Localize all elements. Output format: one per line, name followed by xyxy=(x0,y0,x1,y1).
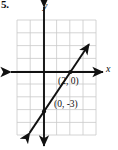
plotted-line xyxy=(30,44,89,133)
coordinate-plane-graph xyxy=(0,0,118,150)
point-2-0 xyxy=(68,70,72,74)
point-0-neg3 xyxy=(42,109,46,113)
y-axis-label: y xyxy=(43,1,47,11)
point-label-0-neg3: (0, -3) xyxy=(54,99,78,109)
x-axis-label: x xyxy=(106,64,110,74)
grid-lines xyxy=(17,20,96,135)
point-label-2-0: (2, 0) xyxy=(58,76,79,86)
